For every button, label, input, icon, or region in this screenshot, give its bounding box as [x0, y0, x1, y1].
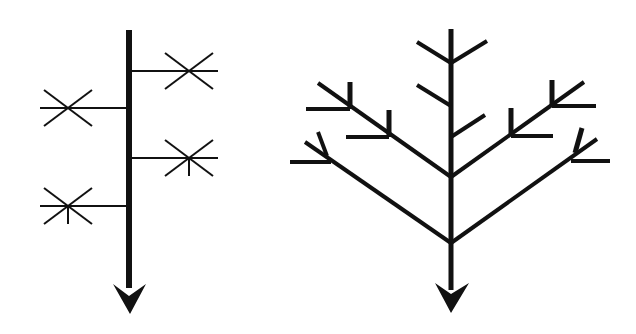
branch-segment	[417, 85, 451, 106]
branch-segment	[451, 115, 485, 137]
branch-segment	[305, 142, 451, 243]
diagram-canvas: Monopodial branching diagram Sympodial /…	[0, 0, 636, 334]
arrowhead-down-icon	[113, 284, 146, 314]
monopodial-branching-diagram	[40, 30, 218, 314]
branching-diagrams-svg	[0, 0, 636, 334]
branch-segment	[451, 139, 597, 243]
branch-segment	[451, 41, 487, 63]
branch-segment	[417, 42, 451, 63]
sympodial-branching-diagram	[290, 29, 610, 313]
